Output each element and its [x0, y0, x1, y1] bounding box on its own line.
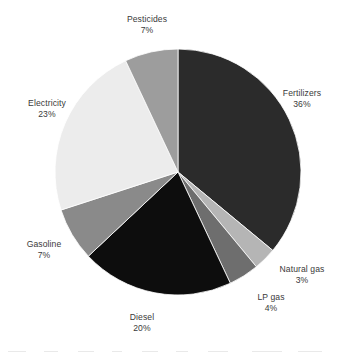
pie-chart: Pesticides 7% Fertilizers 36% Natural ga…: [0, 0, 348, 356]
slice-label-lp-gas-name: LP gas: [243, 292, 299, 303]
slice-label-fertilizers-name: Fertilizers: [265, 88, 339, 99]
slice-label-diesel-value: 20%: [113, 323, 171, 334]
slice-label-pesticides-name: Pesticides: [110, 14, 184, 25]
slice-label-electricity-name: Electricity: [12, 98, 82, 109]
slice-label-gasoline-name: Gasoline: [13, 239, 75, 250]
slice-label-gasoline-value: 7%: [13, 250, 75, 261]
slice-label-fertilizers-value: 36%: [265, 99, 339, 110]
slice-label-fertilizers: Fertilizers 36%: [265, 88, 339, 110]
slice-label-lp-gas-value: 4%: [243, 303, 299, 314]
slice-label-gasoline: Gasoline 7%: [13, 239, 75, 261]
slice-label-electricity-value: 23%: [12, 109, 82, 120]
slice-label-natural-gas-name: Natural gas: [262, 264, 342, 275]
slice-label-natural-gas-value: 3%: [262, 275, 342, 286]
slice-label-diesel: Diesel 20%: [113, 312, 171, 334]
slice-label-diesel-name: Diesel: [113, 312, 171, 323]
pie-slice-group: [55, 49, 301, 295]
slice-label-pesticides: Pesticides 7%: [110, 14, 184, 36]
slice-label-lp-gas: LP gas 4%: [243, 292, 299, 314]
page-scan-artifact: [0, 348, 348, 356]
slice-label-pesticides-value: 7%: [110, 25, 184, 36]
slice-label-natural-gas: Natural gas 3%: [262, 264, 342, 286]
slice-label-electricity: Electricity 23%: [12, 98, 82, 120]
